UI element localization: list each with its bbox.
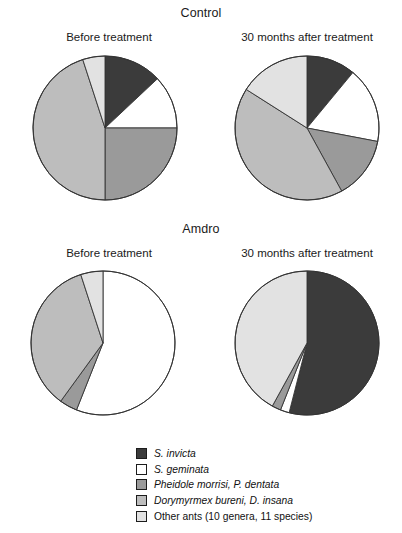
pie-chart-control-after	[232, 53, 382, 203]
pie-svg	[232, 268, 382, 418]
legend-label-other_ants: Other ants (10 genera, 11 species)	[154, 511, 312, 522]
legend-item-other_ants: Other ants (10 genera, 11 species)	[136, 508, 386, 524]
panel-title-amdro-after: 30 months after treatment	[212, 247, 402, 259]
legend-swatch-other_ants	[136, 511, 147, 522]
pie-svg	[30, 53, 180, 203]
pie-svg	[232, 53, 382, 203]
legend-swatch-dorymyrmex	[136, 495, 147, 506]
pie-slice-pheidole	[105, 128, 177, 200]
legend-item-dorymyrmex: Dorymyrmex bureni, D. insana	[136, 493, 386, 509]
legend-label-pheidole: Pheidole morrisi, P. dentata	[154, 479, 279, 490]
legend-label-s_invicta: S. invicta	[154, 448, 196, 459]
legend-label-dorymyrmex: Dorymyrmex bureni, D. insana	[154, 495, 293, 506]
group-title-amdro: Amdro	[0, 222, 402, 236]
pie-chart-amdro-before	[28, 268, 178, 418]
legend-label-s_geminata: S. geminata	[154, 464, 209, 475]
legend-item-pheidole: Pheidole morrisi, P. dentata	[136, 477, 386, 493]
panel-title-control-before: Before treatment	[14, 31, 204, 43]
pie-chart-control-before	[30, 53, 180, 203]
panel-title-control-after: 30 months after treatment	[212, 31, 402, 43]
pie-svg	[28, 268, 178, 418]
figure-pie-charts: Control Before treatment 30 months after…	[0, 0, 402, 533]
pie-chart-amdro-after	[232, 268, 382, 418]
legend-item-s_geminata: S. geminata	[136, 462, 386, 478]
legend-swatch-pheidole	[136, 479, 147, 490]
legend-item-s_invicta: S. invicta	[136, 446, 386, 462]
legend: S. invictaS. geminataPheidole morrisi, P…	[136, 446, 386, 524]
legend-swatch-s_invicta	[136, 448, 147, 459]
group-title-control: Control	[0, 6, 402, 20]
legend-swatch-s_geminata	[136, 464, 147, 475]
panel-title-amdro-before: Before treatment	[14, 247, 204, 259]
